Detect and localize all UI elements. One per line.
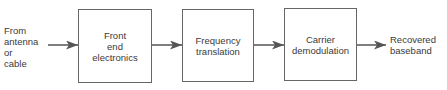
front-end-electronics-label: Front end electronics — [92, 30, 137, 63]
carrier-demodulation-label: Carrier demodulation — [292, 34, 349, 56]
frequency-translation-label: Frequency translation — [196, 35, 241, 57]
front-end-electronics-block: Front end electronics — [78, 9, 152, 83]
carrier-demodulation-block: Carrier demodulation — [284, 8, 357, 81]
output-label: Recovered baseband — [390, 34, 436, 56]
frequency-translation-block: Frequency translation — [182, 9, 254, 82]
